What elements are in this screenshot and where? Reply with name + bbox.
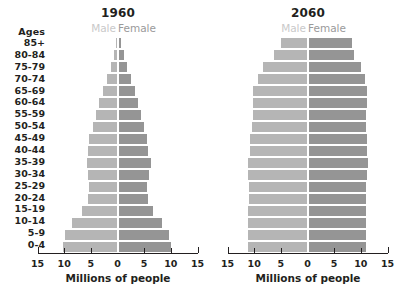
bar-male	[88, 146, 117, 156]
bar-female	[309, 74, 365, 84]
axis-tick	[171, 248, 172, 253]
axis-tick	[228, 247, 229, 253]
bar-female	[309, 38, 352, 48]
bar-female	[309, 194, 366, 204]
axis-tick	[254, 248, 255, 253]
axis-tick	[361, 248, 362, 253]
bar-male	[274, 50, 307, 60]
bar-female	[119, 170, 149, 180]
bar-male	[250, 146, 308, 156]
bar-female	[119, 182, 148, 192]
legend-label-male: Male	[281, 22, 306, 34]
axis-tick-label: 15	[28, 258, 48, 270]
bar-female	[119, 194, 149, 204]
bar-female	[309, 110, 367, 120]
bar-male	[65, 230, 117, 240]
axis-tick-label: 10	[54, 258, 74, 270]
bar-female	[119, 158, 151, 168]
bar-male	[88, 170, 117, 180]
bar-female	[309, 230, 367, 240]
bar-female	[309, 242, 366, 252]
bar-male	[99, 98, 117, 108]
bar-male	[248, 242, 307, 252]
axis-tick-label: 5	[324, 258, 344, 270]
bar-male	[249, 194, 308, 204]
axis-tick	[91, 248, 92, 253]
axis-tick-label: 5	[134, 258, 154, 270]
bar-male	[103, 86, 117, 96]
bar-male	[258, 74, 308, 84]
x-axis-2060	[228, 253, 388, 254]
axis-tick	[144, 248, 145, 253]
bar-male	[248, 206, 307, 216]
bar-female	[309, 50, 354, 60]
axis-tick-label: 10	[351, 258, 371, 270]
axis-line	[228, 253, 388, 254]
legend-label-female: Female	[308, 22, 346, 34]
bar-female	[119, 122, 144, 132]
axis-tick	[281, 248, 282, 253]
legend-label-male: Male	[91, 22, 116, 34]
bar-male	[87, 158, 118, 168]
center-divider-1960	[118, 37, 119, 253]
bar-male	[248, 218, 308, 228]
axis-tick-label: 5	[81, 258, 101, 270]
bar-female	[309, 158, 368, 168]
bar-male	[248, 158, 307, 168]
x-tick-labels-2060: 15105051015	[216, 258, 399, 270]
bar-female	[309, 86, 368, 96]
axis-tick-label: 10	[244, 258, 264, 270]
x-axis-1960	[38, 253, 198, 254]
bar-female	[309, 206, 366, 216]
bar-female	[309, 170, 368, 180]
bar-male	[93, 122, 118, 132]
bar-female	[309, 218, 367, 228]
axis-tick-label: 5	[271, 258, 291, 270]
bar-male	[263, 62, 307, 72]
axis-tick-label: 0	[298, 258, 318, 270]
bar-male	[248, 170, 307, 180]
bar-female	[119, 50, 124, 60]
bar-male	[253, 86, 307, 96]
bar-male	[89, 134, 117, 144]
axis-tick	[388, 247, 389, 253]
axis-tick	[64, 248, 65, 253]
bar-male	[250, 134, 307, 144]
bar-male	[252, 122, 307, 132]
axis-tick-label: 0	[108, 258, 128, 270]
bar-female	[309, 146, 367, 156]
bar-male	[82, 206, 117, 216]
bar-female	[309, 134, 367, 144]
bar-female	[119, 86, 136, 96]
bar-male	[107, 74, 117, 84]
bar-female	[119, 230, 170, 240]
panel-title-2060: 2060	[228, 6, 388, 20]
bar-male	[253, 98, 307, 108]
axis-tick-label: 15	[188, 258, 208, 270]
x-axis-label-2060: Millions of people	[218, 272, 398, 284]
axis-tick	[198, 247, 199, 253]
legend-label-female: Female	[118, 22, 156, 34]
bar-female	[119, 146, 149, 156]
bar-female	[119, 98, 139, 108]
axis-tick	[38, 247, 39, 253]
panel-2060: 2060 Male Female 15105051015 Millions of…	[228, 0, 388, 306]
panel-title-1960: 1960	[38, 6, 198, 20]
bar-male	[89, 182, 117, 192]
bar-female	[309, 98, 367, 108]
bar-male	[88, 194, 117, 204]
axis-tick-label: 15	[218, 258, 238, 270]
bar-female	[119, 74, 131, 84]
axis-tick-label: 15	[378, 258, 398, 270]
center-divider-2060	[308, 37, 309, 253]
axis-tick-label: 10	[161, 258, 181, 270]
x-axis-label-1960: Millions of people	[28, 272, 208, 284]
legend-1960: Male Female	[38, 22, 198, 34]
axis-tick	[334, 248, 335, 253]
legend-2060: Male Female	[228, 22, 388, 34]
bar-female	[119, 218, 163, 228]
panel-1960: 1960 Male Female 15105051015 Millions of…	[38, 0, 198, 306]
axis-line	[38, 253, 198, 254]
bar-male	[248, 230, 308, 240]
